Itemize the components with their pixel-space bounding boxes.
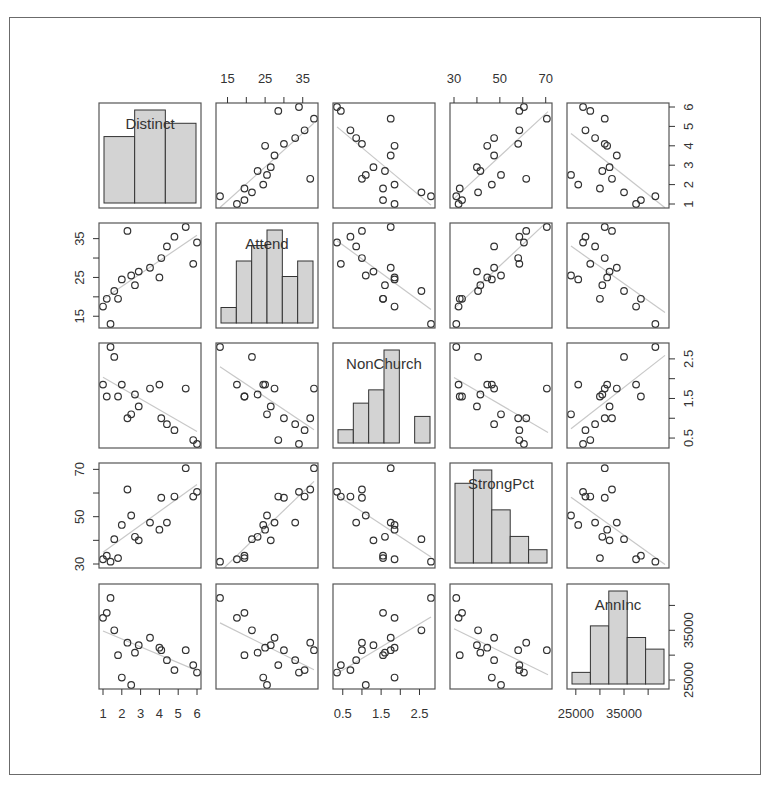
- variable-label: Attend: [245, 235, 288, 252]
- data-point: [241, 393, 248, 400]
- panel-border: [99, 463, 201, 568]
- data-point: [544, 115, 551, 122]
- data-point: [638, 295, 645, 302]
- tick-label: 5: [681, 123, 696, 130]
- data-point: [234, 556, 241, 563]
- data-point: [477, 282, 484, 289]
- histogram-bar: [221, 308, 236, 324]
- data-point: [475, 354, 482, 361]
- data-point: [267, 537, 274, 544]
- data-point: [491, 634, 498, 641]
- data-point: [311, 465, 318, 472]
- scatter-panel-attend-vs-distinct: [216, 103, 318, 208]
- right-axis-distinct: 123456: [669, 103, 696, 207]
- histogram-bar: [415, 416, 430, 443]
- data-point: [587, 108, 594, 115]
- histogram-bar: [104, 137, 135, 203]
- data-point: [135, 403, 142, 410]
- data-point: [382, 168, 389, 175]
- data-point: [164, 243, 171, 250]
- data-point: [264, 512, 271, 519]
- data-point: [582, 427, 589, 434]
- data-point: [601, 465, 608, 472]
- data-point: [264, 172, 271, 179]
- data-point: [370, 537, 377, 544]
- data-point: [613, 152, 620, 159]
- data-point: [260, 674, 267, 681]
- fit-line: [337, 127, 431, 205]
- scatter-panel-anninc-vs-strongpct: [567, 463, 669, 568]
- data-point: [491, 243, 498, 250]
- data-point: [491, 264, 498, 271]
- data-point: [613, 519, 620, 526]
- data-point: [264, 411, 271, 418]
- data-point: [147, 385, 154, 392]
- histogram-bar: [572, 672, 590, 684]
- data-point: [606, 403, 613, 410]
- data-point: [128, 272, 135, 279]
- data-point: [171, 667, 178, 674]
- fit-line: [337, 495, 431, 557]
- data-point: [453, 321, 460, 328]
- data-point: [568, 512, 575, 519]
- data-point: [498, 682, 505, 689]
- data-point: [387, 264, 394, 271]
- tick-label: 35000: [606, 706, 642, 721]
- data-point: [359, 141, 366, 148]
- scatter-panel-nonchurch-vs-attend: [333, 223, 435, 328]
- tick-label: 70: [72, 462, 87, 476]
- tick-label: 50: [493, 71, 507, 86]
- fit-line: [454, 112, 548, 199]
- data-point: [156, 381, 163, 388]
- data-point: [613, 264, 620, 271]
- data-point: [254, 649, 261, 656]
- data-point: [182, 465, 189, 472]
- data-point: [296, 104, 303, 111]
- data-point: [613, 385, 620, 392]
- histogram-bar: [369, 390, 384, 443]
- data-point: [633, 381, 640, 388]
- data-point: [111, 627, 118, 634]
- data-point: [194, 489, 201, 496]
- data-point: [353, 243, 360, 250]
- data-point: [489, 674, 496, 681]
- data-point: [292, 421, 299, 428]
- data-point: [391, 526, 398, 533]
- data-point: [515, 415, 522, 422]
- tick-label: 2.5: [410, 706, 428, 721]
- data-point: [391, 674, 398, 681]
- data-point: [609, 175, 616, 182]
- data-point: [428, 595, 435, 602]
- data-point: [601, 224, 608, 231]
- data-point: [115, 652, 122, 659]
- data-point: [362, 172, 369, 179]
- data-point: [516, 127, 523, 134]
- data-point: [380, 197, 387, 204]
- panel-border: [216, 463, 318, 568]
- data-point: [124, 228, 131, 235]
- data-point: [347, 233, 354, 240]
- data-point: [516, 662, 523, 669]
- data-point: [601, 494, 608, 501]
- data-point: [132, 649, 139, 656]
- data-point: [281, 415, 288, 422]
- data-point: [292, 519, 299, 526]
- data-point: [418, 288, 425, 295]
- data-point: [587, 261, 594, 268]
- scatter-panel-distinct-vs-anninc: [99, 584, 201, 689]
- data-point: [171, 493, 178, 500]
- data-point: [334, 489, 341, 496]
- data-point: [147, 634, 154, 641]
- data-point: [156, 274, 163, 281]
- scatter-panel-nonchurch-vs-anninc: [333, 584, 435, 689]
- data-point: [387, 224, 394, 231]
- data-point: [296, 489, 303, 496]
- tick-label: 1.5: [372, 706, 390, 721]
- data-point: [638, 393, 645, 400]
- data-point: [128, 512, 135, 519]
- data-point: [275, 662, 282, 669]
- data-point: [158, 494, 165, 501]
- data-point: [621, 354, 628, 361]
- data-point: [580, 104, 587, 111]
- tick-label: 2: [118, 706, 125, 721]
